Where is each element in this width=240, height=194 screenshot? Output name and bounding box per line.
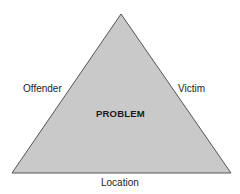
problem-triangle-diagram: Offender Victim PROBLEM Location [0,0,240,194]
victim-label: Victim [178,84,205,94]
offender-label: Offender [23,84,62,94]
triangle-shape [0,0,240,194]
location-label: Location [101,178,139,188]
problem-label: PROBLEM [96,109,145,119]
